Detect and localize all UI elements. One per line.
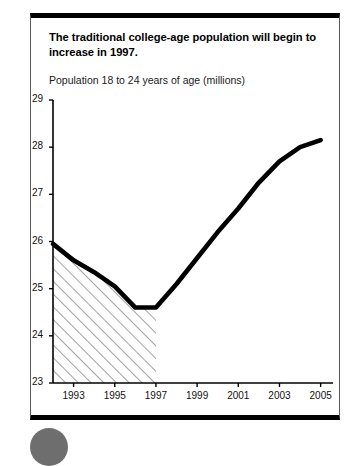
line-chart-svg — [31, 18, 341, 425]
x-axis-tick-label: 1997 — [136, 390, 176, 401]
x-axis-tick-label: 1999 — [177, 390, 217, 401]
y-axis-tick-label: 24 — [23, 329, 43, 340]
historical-hatched-region — [53, 244, 156, 383]
y-axis-tick-label: 29 — [23, 93, 43, 104]
x-axis-tick-label: 2005 — [301, 390, 341, 401]
x-axis-tick-label: 1995 — [95, 390, 135, 401]
plot-area: 23242526272829 1993199519971999200120032… — [31, 18, 341, 425]
x-axis-tick-label: 1993 — [54, 390, 94, 401]
y-axis-tick-label: 26 — [23, 235, 43, 246]
y-axis-tick-label: 25 — [23, 282, 43, 293]
y-axis-tick-label: 28 — [23, 140, 43, 151]
figure-panel: The traditional college-age population w… — [30, 13, 340, 420]
x-axis-tick-label: 2001 — [218, 390, 258, 401]
x-axis-tick-label: 2003 — [259, 390, 299, 401]
y-axis-tick-label: 23 — [23, 376, 43, 387]
filled-circle-icon — [30, 428, 68, 466]
y-axis-tick-label: 27 — [23, 187, 43, 198]
